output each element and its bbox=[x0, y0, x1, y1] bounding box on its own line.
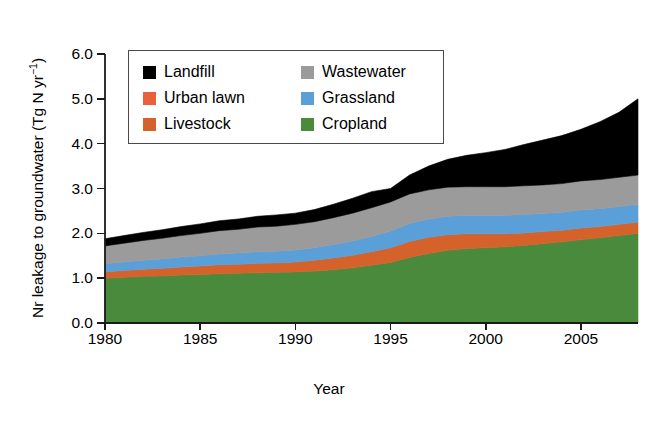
legend-label: Urban lawn bbox=[164, 89, 245, 107]
y-tick-label: 1.0 bbox=[49, 269, 93, 287]
y-tick-label: 4.0 bbox=[49, 135, 93, 153]
legend-entry-grassland[interactable]: Grassland bbox=[301, 85, 406, 111]
x-tick-label: 1985 bbox=[165, 330, 235, 348]
legend-swatch-icon bbox=[143, 92, 156, 105]
legend-entry-urban-lawn[interactable]: Urban lawn bbox=[143, 85, 245, 111]
legend-swatch-icon bbox=[143, 118, 156, 131]
legend-entry-cropland[interactable]: Cropland bbox=[301, 111, 406, 137]
x-tick-label: 2005 bbox=[546, 330, 616, 348]
legend-label: Wastewater bbox=[322, 63, 406, 81]
y-tick-label: 2.0 bbox=[49, 224, 93, 242]
chart-figure: Nr leakage to groundwater (Tg N yr−1) Ye… bbox=[0, 0, 658, 434]
legend-entry-wastewater[interactable]: Wastewater bbox=[301, 59, 406, 85]
x-tick-label: 2000 bbox=[451, 330, 521, 348]
legend-label: Landfill bbox=[164, 63, 215, 81]
y-tick-label: 5.0 bbox=[49, 90, 93, 108]
y-tick-label: 3.0 bbox=[49, 180, 93, 198]
y-tick-mark bbox=[97, 143, 105, 145]
legend-column-right: WastewaterGrasslandCropland bbox=[301, 59, 406, 137]
legend-swatch-icon bbox=[301, 118, 314, 131]
legend-entry-livestock[interactable]: Livestock bbox=[143, 111, 245, 137]
legend-column-left: LandfillUrban lawnLivestock bbox=[143, 59, 245, 137]
legend-label: Grassland bbox=[322, 89, 395, 107]
x-tick-label: 1995 bbox=[356, 330, 426, 348]
x-tick-label: 1990 bbox=[260, 330, 330, 348]
x-tick-label: 1980 bbox=[70, 330, 140, 348]
y-tick-mark bbox=[97, 98, 105, 100]
legend-entry-landfill[interactable]: Landfill bbox=[143, 59, 245, 85]
x-tick-mark bbox=[104, 323, 106, 330]
legend-swatch-icon bbox=[143, 66, 156, 79]
legend-label: Cropland bbox=[322, 115, 387, 133]
x-tick-mark bbox=[580, 323, 582, 330]
y-tick-label: 6.0 bbox=[49, 45, 93, 63]
y-tick-mark bbox=[97, 277, 105, 279]
chart-legend: LandfillUrban lawnLivestock WastewaterGr… bbox=[128, 50, 444, 144]
x-tick-mark bbox=[485, 323, 487, 330]
x-tick-mark bbox=[390, 323, 392, 330]
y-tick-mark bbox=[97, 53, 105, 55]
y-tick-mark bbox=[97, 233, 105, 235]
legend-swatch-icon bbox=[301, 66, 314, 79]
y-tick-mark bbox=[97, 188, 105, 190]
x-tick-mark bbox=[199, 323, 201, 330]
legend-swatch-icon bbox=[301, 92, 314, 105]
legend-label: Livestock bbox=[164, 115, 231, 133]
x-tick-mark bbox=[295, 323, 297, 330]
